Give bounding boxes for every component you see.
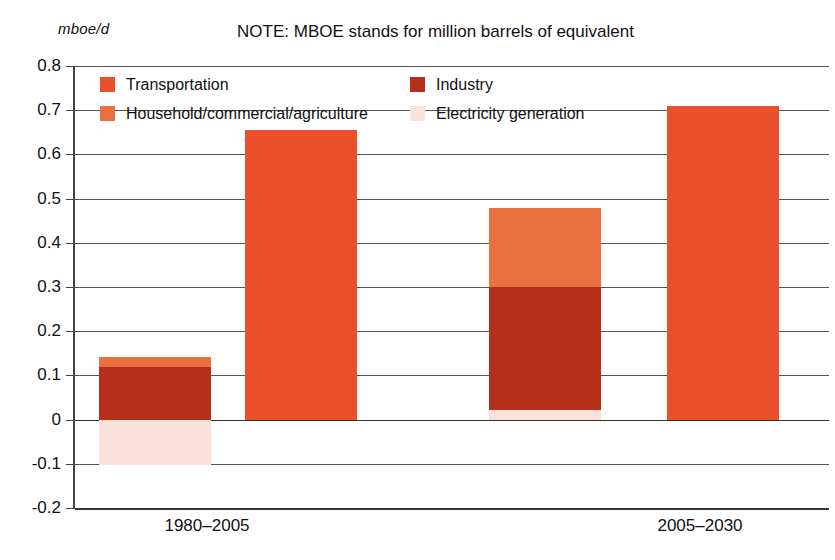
- bar-segment: [99, 420, 211, 466]
- legend-swatch-icon: [410, 106, 425, 121]
- y-axis-tick: [66, 243, 75, 244]
- y-axis-tick-label: 0.8: [37, 56, 61, 76]
- bar-segment: [99, 367, 211, 420]
- y-axis-tick-label: 0.3: [37, 277, 61, 297]
- y-axis-tick-label: 0.7: [37, 100, 61, 120]
- bar-segment: [667, 106, 779, 420]
- chart-root: mboe/d NOTE: MBOE stands for million bar…: [0, 0, 835, 560]
- legend-swatch-icon: [410, 77, 425, 92]
- y-axis-tick-label: 0.2: [37, 321, 61, 341]
- bar-segment: [489, 208, 601, 287]
- y-axis-tick-label: 0.4: [37, 233, 61, 253]
- bar-segment: [489, 287, 601, 410]
- legend-item[interactable]: Electricity generation: [410, 105, 660, 123]
- y-axis-tick-label: 0.6: [37, 144, 61, 164]
- legend-label: Electricity generation: [436, 105, 585, 123]
- y-axis-tick: [66, 66, 75, 67]
- x-axis-label: 1980–2005: [164, 516, 249, 536]
- y-axis-tick: [66, 508, 75, 509]
- legend-label: Transportation: [126, 76, 229, 94]
- bar-segment: [99, 357, 211, 367]
- y-axis-tick: [66, 375, 75, 376]
- y-axis-tick-label: -0.2: [32, 498, 61, 518]
- y-axis-tick: [66, 464, 75, 465]
- y-axis-tick: [66, 420, 75, 421]
- y-axis-tick: [66, 154, 75, 155]
- bar-segment: [245, 130, 357, 420]
- y-axis-tick-label: 0: [52, 410, 61, 430]
- y-axis-tick-label: 0.5: [37, 189, 61, 209]
- legend-swatch-icon: [100, 77, 115, 92]
- bars-layer: [75, 66, 827, 508]
- y-axis-tick-label: -0.1: [32, 454, 61, 474]
- legend-item[interactable]: Household/commercial/agriculture: [100, 105, 410, 123]
- bar-segment: [489, 410, 601, 420]
- legend-label: Industry: [436, 76, 493, 94]
- x-axis-label: 2005–2030: [657, 516, 742, 536]
- legend-item[interactable]: Industry: [410, 76, 660, 94]
- y-axis-tick: [66, 331, 75, 332]
- legend-item[interactable]: Transportation: [100, 76, 410, 94]
- chart-note-title: NOTE: MBOE stands for million barrels of…: [0, 22, 835, 42]
- legend-swatch-icon: [100, 106, 115, 121]
- plot-area: 0.80.70.60.50.40.30.20.10-0.1-0.2: [73, 66, 827, 508]
- gridline: [75, 508, 829, 510]
- y-axis-tick: [66, 110, 75, 111]
- legend-label: Household/commercial/agriculture: [126, 105, 368, 123]
- chart-legend: TransportationIndustryHousehold/commerci…: [100, 70, 660, 128]
- y-axis-tick: [66, 199, 75, 200]
- y-axis-tick-label: 0.1: [37, 365, 61, 385]
- y-axis-tick: [66, 287, 75, 288]
